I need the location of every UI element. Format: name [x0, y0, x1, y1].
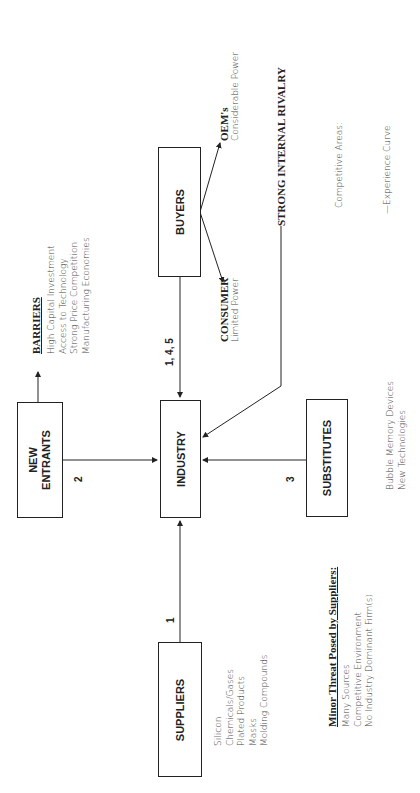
- edge-label-buyers: 1, 4, 5: [164, 338, 175, 366]
- industry-box: INDUSTRY: [160, 400, 201, 518]
- rivalry-heading: STRONG INTERNAL RIVALRY: [274, 67, 288, 226]
- new-entrants-label-line1: NEW: [27, 430, 40, 490]
- supplier-threat-item: Competitive Environment: [353, 567, 365, 727]
- substitutes-box: SUBSTITUTES: [306, 399, 348, 517]
- suppliers-label: SUPPLIERS: [174, 678, 187, 740]
- consumer-block: CONSUMER Limited Power: [218, 278, 242, 342]
- barrier-item: Strong Price Competition: [69, 237, 81, 354]
- supplier-inputs-block: Silicon Chemicals/Gases Plated Products …: [213, 654, 271, 746]
- arrow-buyers-oem: [200, 143, 220, 212]
- supplier-input-item: Molding Compounds: [259, 654, 271, 746]
- edge-label-new-entrants: 2: [73, 476, 84, 482]
- competitive-areas-block: Competitive Areas: —Experience Curve Dri…: [298, 45, 420, 214]
- oem-detail: Considerable Power: [230, 52, 242, 141]
- new-entrants-box: NEW ENTRANTS: [17, 402, 63, 518]
- barriers-block: BARRIERS High Capital Investment Access …: [30, 237, 92, 354]
- barrier-item: Access to Technology: [58, 237, 70, 354]
- edge-label-suppliers: 1: [165, 617, 176, 623]
- buyers-label: BUYERS: [173, 189, 186, 235]
- consumer-heading: CONSUMER: [218, 278, 230, 342]
- oem-heading: OEM's: [218, 52, 230, 141]
- supplier-input-item: Masks: [248, 654, 260, 746]
- competitive-area-item: —Experience Curve: [382, 45, 394, 214]
- supplier-threat-item: No Industry Dominant Firm(s): [364, 567, 376, 727]
- substitutes-label: SUBSTITUTES: [321, 420, 334, 496]
- suppliers-box: SUPPLIERS: [158, 642, 202, 777]
- consumer-detail: Limited Power: [230, 278, 242, 342]
- substitutes-detail-block: Bubble Memory Devices New Technologies: [385, 381, 408, 490]
- supplier-input-item: Chemicals/Gases: [225, 654, 237, 746]
- substitute-item: Bubble Memory Devices: [385, 381, 397, 490]
- substitute-item: New Technologies: [397, 381, 409, 490]
- supplier-input-item: Plated Products: [236, 654, 248, 746]
- supplier-threat-heading: Minor Threat Posed by Suppliers:: [326, 567, 341, 727]
- arrow-buyers-consumer: [200, 212, 223, 282]
- barrier-item: Manufacturing Economies: [81, 237, 93, 354]
- new-entrants-label-line2: ENTRANTS: [40, 430, 53, 490]
- competitive-areas-intro: Competitive Areas:: [334, 45, 346, 214]
- buyers-box: BUYERS: [158, 147, 201, 277]
- new-entrants-label: NEW ENTRANTS: [27, 430, 53, 490]
- edge-label-substitutes: 3: [285, 476, 296, 482]
- industry-label: INDUSTRY: [174, 431, 187, 487]
- barrier-item: High Capital Investment: [46, 237, 58, 354]
- supplier-input-item: Silicon: [213, 654, 225, 746]
- barriers-heading: BARRIERS: [30, 237, 43, 354]
- supplier-threat-item: Many Sources: [341, 567, 353, 727]
- supplier-threat-block: Minor Threat Posed by Suppliers: Many So…: [326, 567, 376, 727]
- oem-block: OEM's Considerable Power: [218, 52, 242, 141]
- rivalry-heading-block: STRONG INTERNAL RIVALRY: [274, 67, 288, 226]
